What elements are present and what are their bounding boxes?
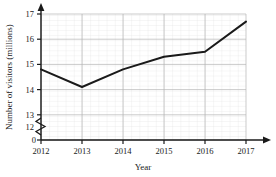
y-tick-label-12: 12 xyxy=(26,122,35,132)
minor-gridlines xyxy=(41,14,246,140)
x-axis-title: Year xyxy=(135,162,152,172)
y-tick-label-13: 13 xyxy=(26,110,35,120)
y-tick-label-17: 17 xyxy=(26,9,35,19)
x-tick-label-2013: 2013 xyxy=(74,146,91,156)
x-tick-label-2014: 2014 xyxy=(115,146,133,156)
y-tick-label-15: 15 xyxy=(26,59,35,69)
x-tick-label-2016: 2016 xyxy=(197,146,214,156)
x-tick-label-2015: 2015 xyxy=(156,146,173,156)
y-axis-arrow-icon xyxy=(38,3,45,11)
y-tick-label-14: 14 xyxy=(26,85,35,95)
chart-canvas: 17 16 15 14 13 12 0 2012 2013 2014 2015 … xyxy=(0,0,276,177)
x-axis-arrow-icon xyxy=(263,137,271,144)
y-axis-title: Number of visitors (millions) xyxy=(4,24,14,130)
y-tick-label-16: 16 xyxy=(26,34,35,44)
line-chart: 17 16 15 14 13 12 0 2012 2013 2014 2015 … xyxy=(0,0,276,177)
x-tick-label-2012: 2012 xyxy=(33,146,50,156)
y-tick-label-0: 0 xyxy=(32,135,36,145)
x-tick-label-2017: 2017 xyxy=(238,146,255,156)
